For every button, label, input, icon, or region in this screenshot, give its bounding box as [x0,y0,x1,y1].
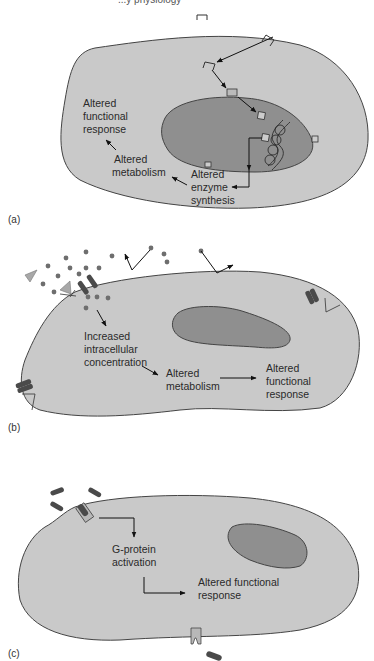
receptor-nuclear-bottom-icon [205,162,211,167]
receptor-nuclear-right-icon [312,136,318,142]
ligand-triangle-2 [60,281,71,294]
receptor-line-1 [132,250,150,270]
hormone-receptor-complex-icon [257,112,265,120]
arrow-receptor-1 [125,254,132,270]
panel-b: Increased intracellular concentration Al… [8,246,359,433]
panel-c: G-protein activation Altered functional … [8,487,359,661]
panel-label-c: (c) [8,648,20,659]
panel-label-b: (b) [8,422,20,433]
header-partial-text: ...y physiology [118,0,181,5]
label-c-gprotein-activation: G-protein activation [112,543,159,568]
diagram-canvas: ...y physiology [0,0,374,661]
hormone-outside-icon [197,15,207,20]
cell-c [18,495,358,640]
hormone-receptor-dna-icon [261,134,269,142]
panel-a: Altered functional response Altered meta… [8,15,368,225]
receptor-line-2 [201,251,217,273]
receptor-nuclear-membrane-icon [227,89,237,96]
panel-label-a: (a) [8,214,20,225]
ligand-triangle-1 [25,270,37,282]
receptor-empty-icon [191,628,201,644]
